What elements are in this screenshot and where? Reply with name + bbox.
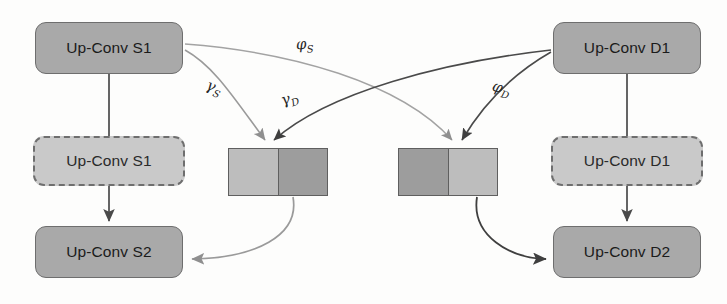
node-up-conv-d2[interactable]: Up-Conv D2	[553, 226, 701, 278]
node-up-conv-s1-ghost[interactable]: Up-Conv S1	[33, 136, 185, 186]
feature-half-light	[449, 149, 498, 195]
node-label: Up-Conv S1	[66, 39, 151, 57]
edge-label-phi-s: φS	[295, 34, 314, 55]
node-label: Up-Conv D1	[584, 152, 670, 170]
edge-gamma-s	[185, 50, 265, 140]
node-up-conv-d1-ghost[interactable]: Up-Conv D1	[551, 136, 703, 186]
edge-featright-to-d2	[476, 197, 546, 259]
feature-half-dark	[399, 149, 449, 195]
feature-block-left[interactable]	[228, 148, 328, 196]
edge-featleft-to-s2	[192, 197, 294, 259]
feature-block-right[interactable]	[398, 148, 498, 196]
subscript: S	[306, 43, 314, 54]
feature-half-light	[229, 149, 279, 195]
node-label: Up-Conv D2	[584, 243, 670, 261]
node-label: Up-Conv S1	[66, 152, 151, 170]
node-up-conv-s2[interactable]: Up-Conv S2	[35, 226, 183, 278]
diagram-canvas: Up-Conv S1 Up-Conv S1 Up-Conv S2 Up-Conv…	[0, 0, 727, 304]
node-up-conv-d1[interactable]: Up-Conv D1	[553, 22, 701, 74]
greek-symbol: φ	[295, 35, 307, 54]
node-label: Up-Conv S2	[66, 243, 151, 261]
edge-phi-s	[185, 44, 452, 140]
node-up-conv-s1[interactable]: Up-Conv S1	[35, 22, 183, 74]
node-label: Up-Conv D1	[584, 39, 670, 57]
feature-half-dark	[279, 149, 328, 195]
